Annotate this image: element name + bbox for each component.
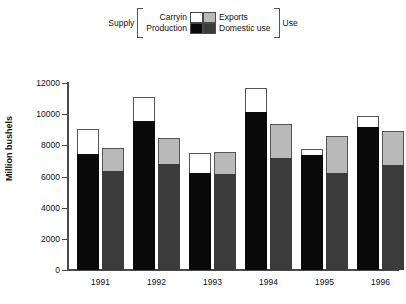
legend-supply-label: Supply: [105, 19, 137, 28]
bar-supply-1993[interactable]: [189, 153, 211, 270]
y-tick-2000: [62, 239, 68, 240]
segment-production-1992[interactable]: [133, 121, 155, 270]
x-tick-label-1993: 1993: [183, 277, 243, 287]
bar-use-1993[interactable]: [214, 152, 236, 270]
legend-swatch-grid: [190, 12, 216, 34]
bar-group-1996: [357, 116, 404, 270]
legend-use-label: Use: [280, 19, 301, 28]
y-tick-label-2000: 2000: [28, 234, 60, 243]
segment-domestic-use-1996[interactable]: [382, 165, 404, 270]
bar-use-1992[interactable]: [158, 138, 180, 270]
bar-use-1994[interactable]: [270, 124, 292, 270]
bar-group-1992: [133, 97, 180, 270]
bar-use-1991[interactable]: [102, 148, 124, 270]
y-tick-12000: [62, 83, 68, 84]
legend-swatch-exports: [203, 12, 216, 23]
segment-carryin-1993[interactable]: [189, 153, 211, 172]
segment-carryin-1992[interactable]: [133, 97, 155, 121]
segment-exports-1992[interactable]: [158, 138, 180, 164]
segment-exports-1991[interactable]: [102, 148, 124, 171]
x-tick-label-1992: 1992: [127, 277, 187, 287]
legend-label-exports: Exports: [219, 13, 271, 22]
legend-label-carryin: Carryin: [146, 13, 187, 22]
bar-group-1994: [245, 88, 292, 270]
segment-domestic-use-1992[interactable]: [158, 164, 180, 270]
bar-supply-1994[interactable]: [245, 88, 267, 270]
y-tick-10000: [62, 114, 68, 115]
bar-supply-1992[interactable]: [133, 97, 155, 270]
segment-carryin-1994[interactable]: [245, 88, 267, 112]
bar-use-1996[interactable]: [382, 131, 404, 270]
segment-carryin-1991[interactable]: [77, 129, 99, 154]
segment-exports-1993[interactable]: [214, 152, 236, 175]
legend-left-names: Carryin Production: [143, 13, 190, 33]
segment-production-1996[interactable]: [357, 127, 379, 270]
plot-area: 020004000600080001000012000: [68, 83, 398, 270]
y-tick-label-8000: 8000: [28, 141, 60, 150]
y-tick-label-4000: 4000: [28, 203, 60, 212]
legend-label-production: Production: [146, 24, 187, 33]
y-tick-8000: [62, 145, 68, 146]
y-tick-label-10000: 10000: [28, 110, 60, 119]
segment-production-1993[interactable]: [189, 173, 211, 270]
bar-supply-1995[interactable]: [301, 149, 323, 270]
legend-label-domestic-use: Domestic use: [219, 24, 271, 33]
segment-exports-1995[interactable]: [326, 136, 348, 173]
y-tick-label-12000: 12000: [28, 79, 60, 88]
y-tick-0: [62, 270, 68, 271]
segment-domestic-use-1995[interactable]: [326, 173, 348, 270]
legend-swatch-production: [190, 23, 203, 34]
bar-supply-1996[interactable]: [357, 116, 379, 270]
y-axis-title: Million bushels: [4, 116, 18, 181]
segment-domestic-use-1993[interactable]: [214, 174, 236, 270]
segment-exports-1994[interactable]: [270, 124, 292, 158]
x-tick-label-1994: 1994: [239, 277, 299, 287]
segment-production-1991[interactable]: [77, 154, 99, 270]
bar-use-1995[interactable]: [326, 136, 348, 270]
segment-carryin-1996[interactable]: [357, 116, 379, 127]
x-tick-label-1996: 1996: [351, 277, 406, 287]
segment-exports-1996[interactable]: [382, 131, 404, 165]
x-tick-label-1995: 1995: [295, 277, 355, 287]
legend-swatch-domestic-use: [203, 23, 216, 34]
y-tick-6000: [62, 177, 68, 178]
bar-group-1993: [189, 152, 236, 270]
bar-group-1995: [301, 136, 348, 270]
y-tick-label-6000: 6000: [28, 172, 60, 181]
y-tick-label-0: 0: [28, 266, 60, 275]
y-tick-4000: [62, 208, 68, 209]
legend-swatch-carryin: [190, 12, 203, 23]
bar-chart: Supply Carryin Production Exports Domest…: [0, 0, 406, 304]
chart-legend: Supply Carryin Production Exports Domest…: [0, 8, 406, 38]
x-tick-label-1991: 1991: [71, 277, 131, 287]
bar-supply-1991[interactable]: [77, 129, 99, 270]
bar-group-1991: [77, 129, 124, 270]
segment-production-1994[interactable]: [245, 112, 267, 270]
segment-domestic-use-1991[interactable]: [102, 171, 124, 270]
segment-domestic-use-1994[interactable]: [270, 158, 292, 270]
segment-production-1995[interactable]: [301, 155, 323, 270]
legend-right-names: Exports Domestic use: [216, 13, 274, 33]
